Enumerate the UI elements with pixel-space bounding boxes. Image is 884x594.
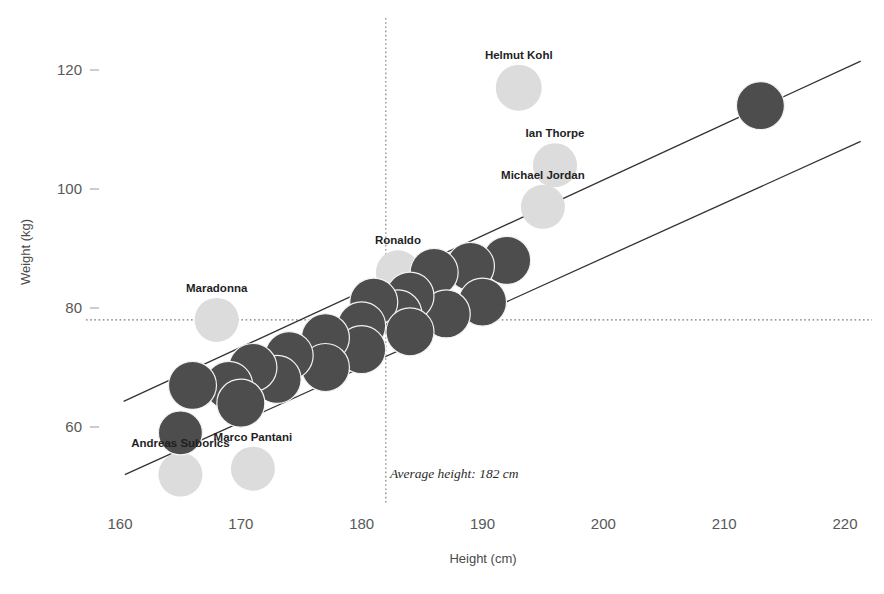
- x-tick-label: 160: [107, 515, 132, 532]
- y-axis-title: Weight (kg): [18, 219, 33, 285]
- data-point[interactable]: [386, 308, 434, 356]
- data-point-michael-jordan[interactable]: [521, 185, 565, 229]
- data-point-helmut-kohl[interactable]: [496, 65, 542, 111]
- x-tick-label: 220: [832, 515, 857, 532]
- point-label: Ronaldo: [375, 234, 421, 246]
- plot-area: Helmut KohlIan ThorpeMichael JordanRonal…: [0, 0, 884, 594]
- point-label: Marco Pantani: [214, 431, 293, 443]
- data-point-marco-pantani[interactable]: [231, 447, 275, 491]
- point-label: Maradonna: [186, 282, 248, 294]
- y-tick-label: 120: [57, 61, 82, 78]
- scatter-chart: Helmut KohlIan ThorpeMichael JordanRonal…: [0, 0, 884, 594]
- point-label: Ian Thorpe: [526, 127, 585, 139]
- average-height-annotation: Average height: 182 cm: [389, 466, 519, 481]
- data-point-andreas-suborics[interactable]: [158, 453, 202, 497]
- data-point[interactable]: [217, 379, 265, 427]
- data-point-maradonna[interactable]: [195, 298, 239, 342]
- x-tick-label: 180: [349, 515, 374, 532]
- y-tick-label: 60: [65, 418, 82, 435]
- y-tick-label: 100: [57, 180, 82, 197]
- x-tick-label: 200: [591, 515, 616, 532]
- x-axis-group: 160170180190200210220: [107, 515, 857, 532]
- point-label: Helmut Kohl: [485, 49, 553, 61]
- data-point[interactable]: [169, 361, 217, 409]
- x-tick-label: 190: [470, 515, 495, 532]
- x-tick-label: 170: [228, 515, 253, 532]
- x-tick-label: 210: [712, 515, 737, 532]
- data-point[interactable]: [736, 82, 784, 130]
- y-tick-label: 80: [65, 299, 82, 316]
- y-axis-group: 6080100120: [57, 61, 99, 435]
- point-label: Michael Jordan: [501, 169, 585, 181]
- x-axis-title: Height (cm): [449, 551, 516, 566]
